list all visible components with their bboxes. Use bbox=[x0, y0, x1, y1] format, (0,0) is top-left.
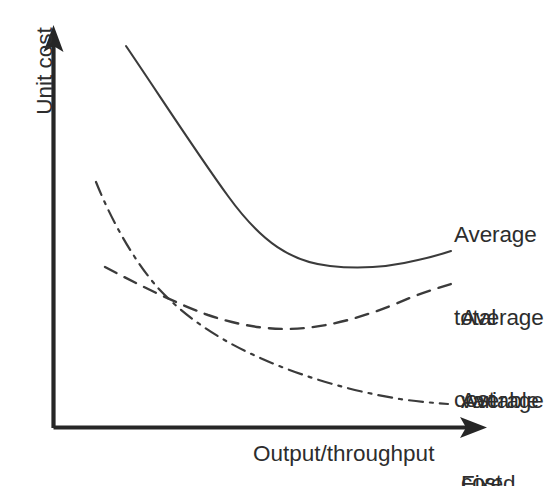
y-axis-label: Unit cost bbox=[32, 6, 58, 136]
curve-average-fixed-cost bbox=[96, 182, 448, 404]
annotation-average-fixed-cost: Average Fixed cost bbox=[461, 332, 544, 486]
x-axis bbox=[54, 417, 488, 438]
cost-curves-chart: Unit cost Output/throughput Average tota… bbox=[0, 0, 557, 486]
x-axis-label: Output/throughput bbox=[253, 441, 434, 467]
annotation-afc-line1: Average bbox=[461, 387, 544, 415]
annotation-atc-line1: Average bbox=[454, 221, 537, 249]
annotation-afc-line2: Fixed bbox=[461, 470, 544, 486]
curve-average-total-cost bbox=[126, 46, 451, 268]
curve-average-variable-cost bbox=[105, 267, 451, 329]
annotation-avc-line1: Average bbox=[461, 304, 544, 332]
